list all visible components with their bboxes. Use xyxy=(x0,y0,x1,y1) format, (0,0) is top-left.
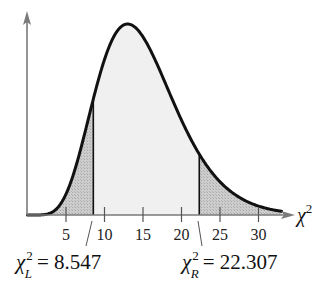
y-axis xyxy=(23,11,31,215)
left-tail-region xyxy=(28,99,94,215)
chi-square-distribution-diagram: 51015202530 χ2 χ2L= 8.547 χ2R= 22.307 xyxy=(0,0,332,297)
left-critical-leader xyxy=(86,221,92,246)
x-tick-label: 10 xyxy=(97,226,113,243)
shaded-regions xyxy=(28,24,282,215)
x-tick-label: 25 xyxy=(212,226,228,243)
x-tick-label: 20 xyxy=(174,226,190,243)
right-critical-leader xyxy=(198,221,202,246)
right-tail-region xyxy=(199,154,281,215)
x-tick-label: 15 xyxy=(135,226,151,243)
left-critical-value-label: χ2L= 8.547 xyxy=(14,248,101,281)
x-tick-label: 30 xyxy=(251,226,267,243)
x-axis-label: χ2 xyxy=(295,201,312,227)
x-tick-label: 5 xyxy=(62,226,70,243)
right-critical-value-label: χ2R= 22.307 xyxy=(180,248,278,281)
middle-region xyxy=(93,24,199,215)
